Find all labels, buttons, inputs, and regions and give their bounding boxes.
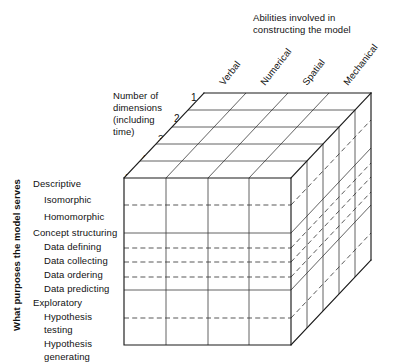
row-label-concept-structuring: Concept structuring bbox=[33, 227, 117, 238]
row-label-data-defining: Data defining bbox=[44, 241, 101, 252]
row-label-exploratory: Exploratory bbox=[33, 297, 82, 308]
row-label-hypothesis-testing-1: Hypothesis bbox=[44, 311, 92, 322]
top-heading-line2: constructing the model bbox=[253, 24, 351, 35]
left-axis-label: What purposes the model serves bbox=[11, 179, 22, 331]
cube-diagram-svg: Abilities involved in constructing the m… bbox=[0, 0, 400, 364]
row-label-data-ordering: Data ordering bbox=[44, 269, 103, 280]
column-label-spatial: Spatial bbox=[300, 57, 327, 87]
top-heading-line1: Abilities involved in bbox=[253, 12, 335, 23]
depth-axis-label: Number of dimensions (including time) bbox=[113, 90, 162, 137]
row-label-hypothesis-generating-1: Hypothesis bbox=[44, 338, 92, 349]
depth-axis-line4: time) bbox=[113, 126, 135, 137]
column-labels: Verbal Numerical Spatial Mechanical bbox=[217, 42, 380, 87]
column-label-mechanical: Mechanical bbox=[341, 42, 380, 87]
column-label-verbal: Verbal bbox=[217, 59, 243, 87]
row-label-data-collecting: Data collecting bbox=[44, 255, 108, 266]
row-label-descriptive: Descriptive bbox=[33, 178, 81, 189]
depth-axis-line1: Number of bbox=[113, 90, 159, 101]
top-heading: Abilities involved in constructing the m… bbox=[253, 12, 351, 35]
column-label-numerical: Numerical bbox=[258, 46, 294, 87]
row-label-isomorphic: Isomorphic bbox=[44, 194, 92, 205]
cube-front-face bbox=[124, 178, 291, 345]
row-label-data-predicting: Data predicting bbox=[44, 283, 109, 294]
left-axis-label-text: What purposes the model serves bbox=[11, 179, 22, 331]
row-label-homomorphic: Homomorphic bbox=[44, 211, 104, 222]
depth-axis-line3: (including bbox=[113, 114, 155, 125]
row-label-hypothesis-generating-2: generating bbox=[44, 351, 90, 362]
row-label-hypothesis-testing-2: testing bbox=[44, 324, 73, 335]
depth-axis-line2: dimensions bbox=[113, 102, 162, 113]
row-labels: Descriptive Isomorphic Homomorphic Conce… bbox=[33, 178, 117, 362]
figure-canvas: Abilities involved in constructing the m… bbox=[0, 0, 400, 364]
